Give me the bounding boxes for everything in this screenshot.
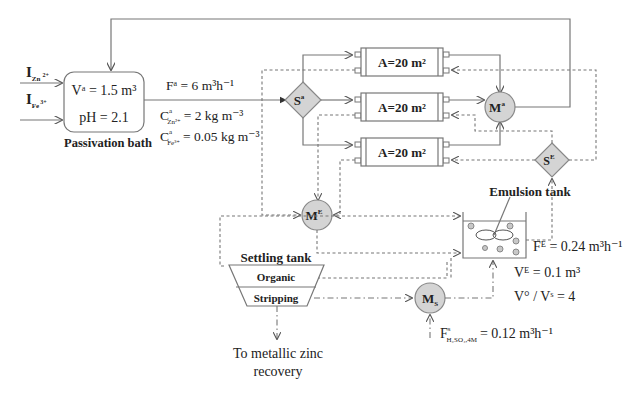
passivation-bath[interactable]: Vᵃ = 1.5 m³ pH = 2.1 Passivation bath [64, 72, 152, 150]
svg-text:IZn2+: IZn2+ [26, 64, 49, 83]
bath-ph: pH = 2.1 [79, 110, 129, 125]
module-2[interactable]: A=20 m² [355, 93, 449, 121]
splitter-se[interactable]: SE [535, 143, 569, 177]
stripping-phase: Stripping [254, 292, 299, 304]
feed-labels: Fᵃ = 6 m³h⁻¹ CaZn²⁺= 2 kg m⁻³ CaFe³⁺= 0.… [160, 78, 259, 147]
svg-text:A=20 m²: A=20 m² [378, 145, 426, 160]
svg-text:FsH₂SO₄,4M= 0.12 m³h⁻¹: FsH₂SO₄,4M= 0.12 m³h⁻¹ [440, 325, 553, 344]
svg-text:recovery: recovery [254, 364, 303, 379]
module-1[interactable]: A=20 m² [355, 48, 449, 76]
svg-text:Fᵃ = 6 m³h⁻¹: Fᵃ = 6 m³h⁻¹ [166, 78, 234, 93]
svg-text:A=20 m²: A=20 m² [378, 100, 426, 115]
emulsion-labels: Fᴱ = 0.24 m³h⁻¹ Vᴱ = 0.1 m³ V° / Vˢ = 4 [514, 239, 623, 304]
svg-text:A=20 m²: A=20 m² [378, 55, 426, 70]
svg-text:CaFe³⁺= 0.05 kg m⁻³: CaFe³⁺= 0.05 kg m⁻³ [160, 128, 259, 147]
svg-text:CaZn²⁺= 2 kg m⁻³: CaZn²⁺= 2 kg m⁻³ [160, 107, 243, 126]
svg-text:Settling tank: Settling tank [240, 250, 312, 265]
svg-text:IFe3+: IFe3+ [26, 91, 47, 110]
mixer-ma[interactable]: Ma [485, 92, 515, 122]
svg-text:Emulsion tank: Emulsion tank [489, 184, 571, 199]
mixer-me[interactable]: ME [302, 200, 332, 230]
input-zn: IZn2+ [20, 64, 62, 83]
svg-text:Fᴱ = 0.24 m³h⁻¹: Fᴱ = 0.24 m³h⁻¹ [533, 239, 623, 254]
svg-text:V° / Vˢ = 4: V° / Vˢ = 4 [514, 289, 575, 304]
organic-phase: Organic [257, 271, 296, 283]
input-fe: IFe3+ [20, 91, 62, 120]
splitter-sa[interactable]: Sa [285, 82, 321, 118]
outlet-label: To metallic zinc recovery [233, 346, 323, 379]
acid-feed-label: FsH₂SO₄,4M= 0.12 m³h⁻¹ [440, 325, 553, 344]
svg-text:Vᴱ = 0.1 m³: Vᴱ = 0.1 m³ [514, 265, 580, 280]
bath-label: Passivation bath [64, 136, 152, 150]
flowsheet-diagram: IZn2+ IFe3+ Vᵃ = 1.5 m³ pH = 2.1 Passiva… [0, 0, 641, 393]
settling-tank[interactable]: Settling tank Organic Stripping [229, 250, 324, 306]
bath-volume: Vᵃ = 1.5 m³ [72, 83, 137, 98]
agitator-shaft-icon [494, 197, 510, 235]
mixer-ms[interactable]: MS [415, 283, 445, 313]
module-3[interactable]: A=20 m² [355, 138, 449, 166]
svg-text:To metallic zinc: To metallic zinc [233, 346, 323, 361]
